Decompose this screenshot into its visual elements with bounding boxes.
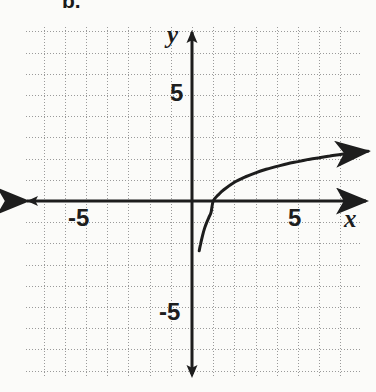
figure-canvas: b. 5 -5 5 -5 y x xyxy=(0,0,376,392)
y-axis-tick-5: 5 xyxy=(170,81,183,105)
x-axis-tick-5: 5 xyxy=(288,206,301,230)
y-axis-tick-neg5: -5 xyxy=(159,300,180,324)
x-axis-tick-neg5: -5 xyxy=(68,206,89,230)
x-axis-label: x xyxy=(344,206,357,231)
y-axis-label: y xyxy=(167,22,178,47)
graph-plot xyxy=(0,0,376,392)
